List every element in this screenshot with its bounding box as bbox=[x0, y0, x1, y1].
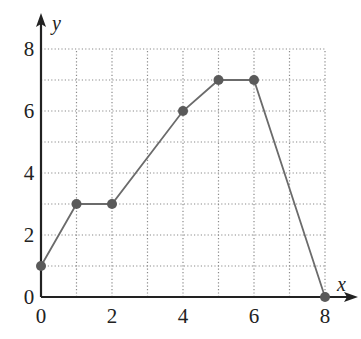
data-point-marker bbox=[214, 75, 224, 85]
line-chart: 0246802468 x y bbox=[0, 0, 361, 339]
y-tick-label: 0 bbox=[24, 285, 35, 309]
tick-labels: 0246802468 bbox=[24, 37, 331, 328]
y-tick-label: 2 bbox=[24, 223, 35, 247]
data-point-marker bbox=[107, 199, 117, 209]
grid-lines bbox=[41, 49, 325, 297]
x-tick-label: 2 bbox=[107, 304, 118, 328]
x-tick-label: 4 bbox=[178, 304, 189, 328]
y-tick-label: 4 bbox=[24, 161, 35, 185]
y-tick-label: 8 bbox=[24, 37, 35, 61]
data-point-marker bbox=[36, 261, 46, 271]
data-point-marker bbox=[249, 75, 259, 85]
y-tick-label: 6 bbox=[24, 99, 35, 123]
x-tick-label: 0 bbox=[36, 304, 47, 328]
data-point-marker bbox=[320, 292, 330, 302]
y-axis-label: y bbox=[50, 12, 61, 35]
data-point-marker bbox=[72, 199, 82, 209]
axes bbox=[36, 13, 358, 302]
x-tick-label: 8 bbox=[320, 304, 331, 328]
x-tick-label: 6 bbox=[249, 304, 260, 328]
data-point-marker bbox=[178, 106, 188, 116]
x-axis-label: x bbox=[336, 273, 346, 295]
data-series bbox=[36, 75, 330, 302]
